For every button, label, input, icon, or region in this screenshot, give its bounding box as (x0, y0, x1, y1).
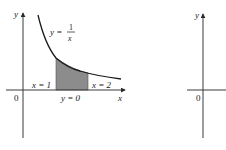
y-axis-label: y (13, 9, 18, 19)
left-plot: y x 0 y = 1 x x = 1 x = 2 y = 0 (6, 9, 125, 138)
x-axis-label: x (117, 93, 122, 103)
label-y-equals-0: y = 0 (60, 93, 81, 103)
hyperbola-curve (38, 15, 121, 79)
label-x-equals-2: x = 2 (91, 80, 112, 90)
svg-text:x: x (67, 34, 72, 43)
figure: y x 0 y = 1 x x = 1 x = 2 y = 0 y 0 (0, 0, 226, 150)
svg-text:1: 1 (69, 23, 73, 32)
right-y-axis-label: y (194, 10, 199, 20)
svg-text:y =: y = (49, 27, 62, 37)
shaded-area-region (56, 58, 88, 90)
curve-equation-label: y = 1 x (49, 23, 75, 43)
origin-label: 0 (14, 93, 19, 103)
right-plot: y 0 (187, 10, 226, 138)
right-origin-label: 0 (196, 93, 201, 103)
label-x-equals-1: x = 1 (31, 80, 51, 90)
